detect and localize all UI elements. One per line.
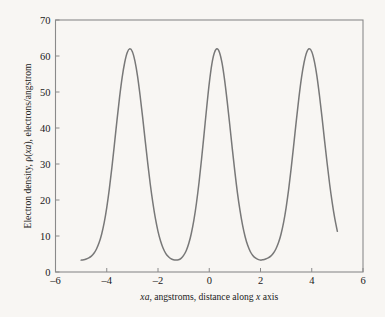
x-tick-label: –2 xyxy=(152,275,164,286)
x-tick-label: –6 xyxy=(49,275,61,286)
chart-svg: –6–4–20246 010203040506070 xa, angstroms… xyxy=(0,0,385,317)
y-tick-label: 0 xyxy=(45,267,50,278)
x-tick-label: –4 xyxy=(101,275,113,286)
y-tick-label: 50 xyxy=(40,87,51,98)
x-tick-label: 4 xyxy=(309,275,315,286)
x-tick-label: 0 xyxy=(207,275,212,286)
x-axis-title: xa, angstroms, distance along x axis xyxy=(139,291,278,302)
y-tick-label: 10 xyxy=(40,231,51,242)
x-tick-label: 6 xyxy=(360,275,365,286)
y-tick-label: 70 xyxy=(40,15,51,26)
y-tick-label: 20 xyxy=(40,195,51,206)
y-tick-label: 60 xyxy=(40,51,51,62)
y-axis-title: Electron density, ρ(xa), electrons/angst… xyxy=(22,63,34,228)
y-tick-label: 30 xyxy=(40,159,51,170)
y-tick-label: 40 xyxy=(40,123,51,134)
x-tick-label: 2 xyxy=(258,275,263,286)
chart-figure: –6–4–20246 010203040506070 xa, angstroms… xyxy=(0,0,385,317)
